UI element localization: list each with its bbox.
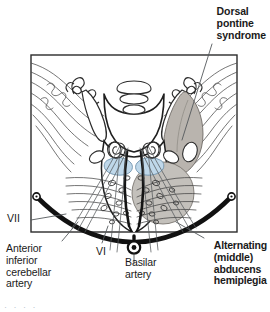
basilar-artery-label: Basilar artery: [125, 257, 156, 281]
figure-root: Dorsal pontine syndrome Alternating (mid…: [0, 0, 270, 312]
nerve-vi-label: VI: [96, 246, 106, 258]
anterior-inferior-cerebellar-artery-label: Anterior inferior cerebellar artery: [6, 243, 51, 290]
caption-fragment: · · · ·: [4, 302, 38, 312]
dorsal-pontine-syndrome-title: Dorsal pontine syndrome: [217, 6, 266, 41]
nerve-vii-label: VII: [7, 213, 20, 225]
alternating-abducens-hemiplegia-label: Alternating (middle) abducens hemiplegia: [214, 240, 267, 287]
